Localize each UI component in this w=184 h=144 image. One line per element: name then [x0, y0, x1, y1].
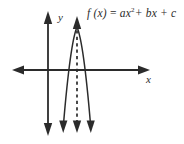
- function-notation: f (x): [87, 7, 107, 19]
- y-axis-down-arrowhead: [44, 123, 52, 136]
- parabola-right-branch-arrowhead: [87, 121, 95, 134]
- axis-of-symmetry-up-arrowhead: [73, 16, 81, 29]
- constant-term: + c: [160, 7, 176, 19]
- axis-of-symmetry-down-arrowhead: [73, 121, 81, 134]
- graph-canvas: [0, 0, 184, 144]
- quadratic-term: ax: [120, 7, 131, 19]
- x-axis: [12, 66, 150, 75]
- equals-sign: =: [107, 7, 120, 19]
- y-axis-up-arrowhead: [44, 11, 52, 24]
- parabola-curve: [59, 27, 95, 133]
- linear-term: + bx: [135, 7, 160, 19]
- parabola-left-branch-arrowhead: [59, 121, 67, 134]
- function-equation-label: f (x) = ax2+ bx + c: [87, 8, 176, 20]
- axis-of-symmetry: [73, 16, 81, 133]
- y-axis-label: y: [58, 12, 63, 23]
- y-axis: [44, 11, 52, 136]
- parabola-figure: y x f (x) = ax2+ bx + c: [0, 0, 184, 144]
- x-axis-left-arrowhead: [12, 66, 24, 75]
- x-axis-label: x: [146, 74, 151, 85]
